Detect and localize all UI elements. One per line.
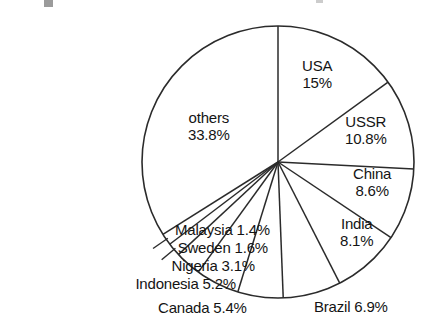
- pie-label-line: India: [340, 216, 373, 233]
- pie-label-indonesia: Indonesia 5.2%: [135, 276, 236, 293]
- pie-label-line: 10.8%: [345, 131, 387, 148]
- pie-label-line: Canada 5.4%: [158, 300, 247, 317]
- pie-label-line: USSR: [345, 114, 387, 131]
- leader-line-malaysia: [153, 238, 168, 248]
- pie-label-ussr: USSR10.8%: [345, 114, 387, 148]
- pie-label-line: USA: [302, 58, 332, 75]
- pie-label-usa: USA15%: [302, 58, 332, 92]
- pie-label-line: Malaysia 1.4%: [175, 222, 270, 239]
- pie-label-line: 8.1%: [340, 233, 373, 250]
- pie-chart: USA15%USSR10.8%China8.6%India8.1%Brazil …: [0, 0, 428, 330]
- slice-divider: [278, 162, 283, 298]
- pie-label-line: Sweden 1.6%: [178, 240, 268, 257]
- pie-label-line: Nigeria 3.1%: [172, 258, 255, 275]
- pie-label-sweden: Sweden 1.6%: [178, 240, 268, 257]
- pie-label-china: China8.6%: [353, 166, 391, 200]
- pie-label-line: 33.8%: [188, 127, 230, 144]
- pie-label-line: 8.6%: [353, 183, 391, 200]
- pie-label-line: Indonesia 5.2%: [135, 276, 236, 293]
- slice-divider: [278, 162, 340, 283]
- pie-label-line: Brazil 6.9%: [314, 299, 388, 316]
- pie-label-line: 15%: [302, 75, 332, 92]
- pie-label-line: others: [188, 110, 230, 127]
- pie-label-malaysia: Malaysia 1.4%: [175, 222, 270, 239]
- pie-label-brazil: Brazil 6.9%: [314, 299, 388, 316]
- pie-label-india: India8.1%: [340, 216, 373, 250]
- pie-label-canada: Canada 5.4%: [158, 300, 247, 317]
- slice-divider: [278, 162, 414, 169]
- pie-label-others: others33.8%: [188, 110, 230, 144]
- pie-label-nigeria: Nigeria 3.1%: [172, 258, 255, 275]
- pie-label-line: China: [353, 166, 391, 183]
